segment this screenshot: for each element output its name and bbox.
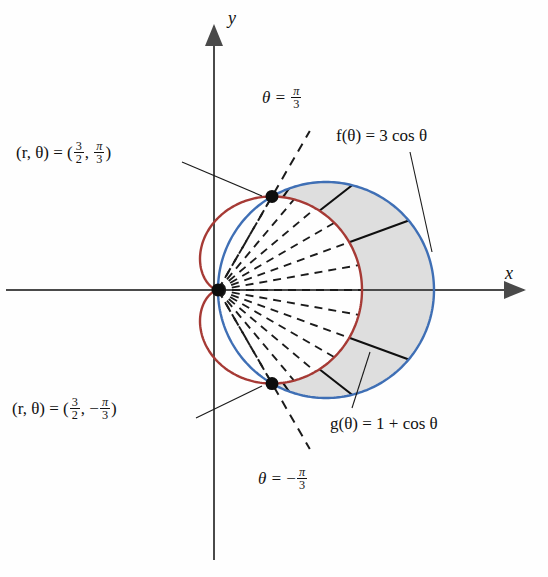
dashed-ray xyxy=(218,290,294,381)
upper-point-comma: , xyxy=(85,143,94,162)
theta-upper-fraction: π3 xyxy=(291,85,301,111)
dashed-ray xyxy=(218,199,294,290)
lower-point-prefix: (r, θ) = ( xyxy=(12,399,69,418)
theta-lower-label: θ = −π3 xyxy=(258,466,308,492)
dashed-ray xyxy=(218,265,359,290)
intersection-dot-lower xyxy=(266,377,279,390)
lower-point-close: ) xyxy=(111,399,117,418)
theta-upper-prefix: θ = xyxy=(262,88,290,107)
theta-upper-label: θ = π3 xyxy=(262,85,302,111)
dashed-ray xyxy=(218,290,315,372)
upper-point-label: (r, θ) = (32, π3) xyxy=(16,140,111,166)
theta-lower-sign: − xyxy=(286,469,296,488)
f-curve-label: f(θ) = 3 cos θ xyxy=(336,126,427,146)
origin-dot xyxy=(212,284,225,297)
polar-area-figure: y x θ = π3 θ = −π3 (r, θ) = (32, π3) (r,… xyxy=(0,0,548,577)
leader-lower-point xyxy=(196,386,262,418)
g-curve-label: g(θ) = 1 + cos θ xyxy=(330,414,438,434)
dashed-ray xyxy=(218,208,315,290)
theta-lower-prefix: θ = xyxy=(258,469,286,488)
lower-point-theta: π3 xyxy=(100,396,110,422)
x-axis-label: x xyxy=(505,263,513,284)
intersection-dot-upper xyxy=(266,190,279,203)
lower-point-r: 32 xyxy=(70,396,80,422)
dashed-ray xyxy=(218,290,359,315)
upper-point-theta: π3 xyxy=(94,140,104,166)
theta-lower-fraction: π3 xyxy=(297,466,307,492)
lower-point-sign: − xyxy=(89,399,99,418)
leader-upper-point xyxy=(182,162,262,196)
upper-point-close: ) xyxy=(105,143,111,162)
upper-point-prefix: (r, θ) = ( xyxy=(16,143,73,162)
lower-point-label: (r, θ) = (32, −π3) xyxy=(12,396,117,422)
y-axis-label: y xyxy=(228,8,236,29)
upper-point-r: 32 xyxy=(74,140,84,166)
